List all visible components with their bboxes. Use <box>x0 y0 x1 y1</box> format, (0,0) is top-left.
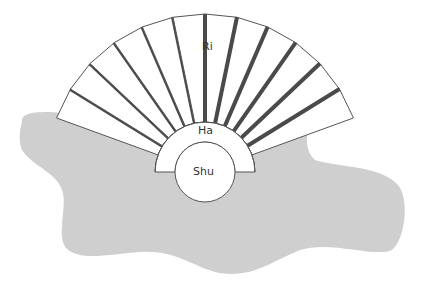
shu-ha-ri-diagram: Ha Shu Ri <box>0 0 421 293</box>
ri-label: Ri <box>202 40 213 53</box>
shu-label: Shu <box>193 165 214 178</box>
ha-label: Ha <box>198 124 213 137</box>
